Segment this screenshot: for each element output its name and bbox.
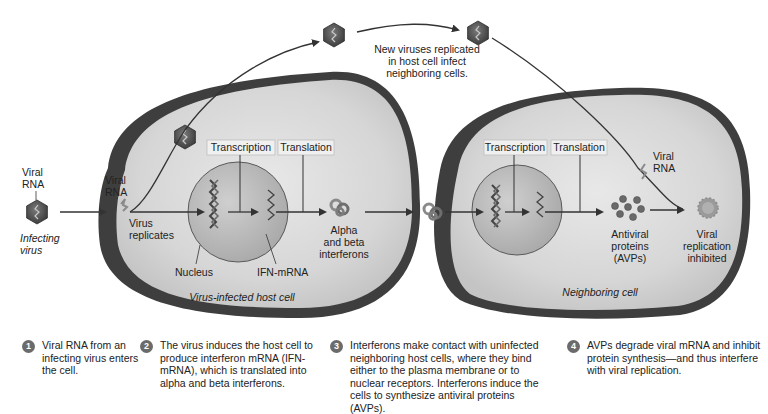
step-3-text: Interferons make contact with uninfected… bbox=[350, 339, 548, 414]
inhibited-label-1: Viral bbox=[697, 228, 718, 240]
ifn-mrna-label: IFN-mRNA bbox=[257, 266, 308, 278]
infecting-viral-rna-label-1: Viral bbox=[22, 166, 43, 178]
interferons-label-3: interferons bbox=[319, 248, 369, 260]
step-3: 3 Interferons make contact with uninfect… bbox=[330, 339, 548, 414]
host-viral-rna-label-1: Viral bbox=[105, 174, 126, 186]
step-1-badge: 1 bbox=[22, 340, 35, 353]
neighbor-transcription-label: Transcription bbox=[485, 141, 545, 153]
avp-label-2: proteins bbox=[611, 240, 648, 252]
step-4-text: AVPs degrade viral mRNA and inhibit prot… bbox=[587, 339, 767, 377]
step-2-text: The virus induces the host cell to produ… bbox=[160, 339, 325, 389]
step-1-text: Viral RNA from an infecting virus enters… bbox=[42, 339, 147, 377]
neighbor-viral-rna-label-2: RNA bbox=[653, 162, 675, 174]
virus-replicates-label-1: Virus bbox=[129, 217, 153, 229]
virus-replicates-label-2: replicates bbox=[129, 229, 174, 241]
neighbor-translation-label: Translation bbox=[553, 141, 605, 153]
nucleus-label: Nucleus bbox=[175, 266, 213, 278]
step-4-badge: 4 bbox=[567, 340, 580, 353]
neighbor-nucleus bbox=[472, 165, 562, 255]
host-transcription-label: Transcription bbox=[211, 141, 271, 153]
new-virus-icon-2 bbox=[468, 21, 489, 45]
neighbor-cell: Transcription Translation Viral RNA bbox=[365, 38, 750, 319]
infecting-viral-rna-label-2: RNA bbox=[22, 178, 44, 190]
inhibited-label-3: inhibited bbox=[687, 252, 726, 264]
new-viruses-label-2: in host cell infect bbox=[388, 55, 466, 67]
step-2: 2 The virus induces the host cell to pro… bbox=[140, 339, 325, 389]
host-viral-rna-label-2: RNA bbox=[105, 186, 127, 198]
new-virus-icon-1 bbox=[324, 23, 345, 47]
avp-label-1: Antiviral bbox=[611, 228, 648, 240]
inhibited-virus-icon bbox=[698, 198, 718, 218]
infecting-virus-caption-2: virus bbox=[20, 244, 43, 256]
neighbor-viral-rna-label-1: Viral bbox=[653, 150, 674, 162]
infecting-virus-caption-1: Infecting bbox=[20, 232, 60, 244]
host-translation-label: Translation bbox=[280, 141, 332, 153]
interferons-label-2: and beta bbox=[324, 236, 365, 248]
step-2-badge: 2 bbox=[140, 340, 153, 353]
neighbor-cell-title: Neighboring cell bbox=[562, 286, 638, 298]
step-1: 1 Viral RNA from an infecting virus ente… bbox=[22, 339, 147, 377]
interferons-label-1: Alpha bbox=[331, 224, 358, 236]
avp-label-3: (AVPs) bbox=[614, 252, 646, 264]
host-cell-title: Virus-infected host cell bbox=[189, 291, 295, 303]
infecting-virus: Viral RNA Infecting virus bbox=[20, 166, 105, 256]
step-4: 4 AVPs degrade viral mRNA and inhibit pr… bbox=[567, 339, 767, 377]
step-3-badge: 3 bbox=[330, 340, 343, 353]
new-viruses-label-1: New viruses replicated bbox=[374, 43, 480, 55]
inhibited-label-2: replication bbox=[683, 240, 731, 252]
infecting-virus-icon bbox=[27, 200, 48, 224]
new-viruses-label-3: neighboring cells. bbox=[386, 67, 468, 79]
